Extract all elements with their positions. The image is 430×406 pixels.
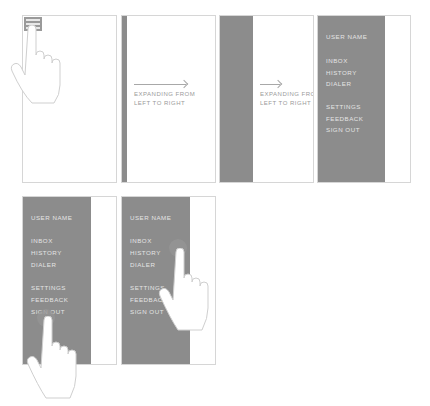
drawer-panel: USER NAME INBOX HISTORY DIALER SETTINGS … bbox=[318, 16, 385, 182]
menu-item-inbox[interactable]: INBOX bbox=[326, 57, 348, 64]
menu-item-history[interactable]: HISTORY bbox=[326, 69, 357, 76]
hand-pointer-icon bbox=[26, 316, 86, 402]
arrow-right-icon bbox=[134, 84, 186, 85]
drawer-panel bbox=[122, 16, 127, 182]
menu-item-dialer[interactable]: DIALER bbox=[326, 80, 351, 87]
menu-item-dialer[interactable]: DIALER bbox=[31, 261, 56, 268]
frame-step-3: EXPANDING FROM LEFT TO RIGHT bbox=[219, 15, 314, 183]
user-name: USER NAME bbox=[326, 33, 367, 40]
user-name: USER NAME bbox=[130, 214, 171, 221]
caption: EXPANDING FROM LEFT TO RIGHT bbox=[134, 90, 195, 108]
menu-item-dialer[interactable]: DIALER bbox=[130, 261, 155, 268]
frame-step-4: USER NAME INBOX HISTORY DIALER SETTINGS … bbox=[317, 15, 411, 183]
drawer-panel bbox=[220, 16, 253, 182]
frame-step-2: EXPANDING FROM LEFT TO RIGHT bbox=[121, 15, 216, 183]
hand-pointer-icon bbox=[10, 25, 70, 105]
hand-pointer-icon bbox=[158, 248, 218, 334]
menu-item-settings[interactable]: SETTINGS bbox=[31, 284, 66, 291]
menu-item-history[interactable]: HISTORY bbox=[31, 249, 62, 256]
menu-item-inbox[interactable]: INBOX bbox=[31, 237, 53, 244]
menu-item-feedback[interactable]: FEEDBACK bbox=[326, 115, 363, 122]
menu-item-sign-out[interactable]: SIGN OUT bbox=[326, 126, 360, 133]
menu-item-settings[interactable]: SETTINGS bbox=[326, 103, 361, 110]
user-name: USER NAME bbox=[31, 214, 72, 221]
menu-item-history[interactable]: HISTORY bbox=[130, 249, 161, 256]
menu-item-feedback[interactable]: FEEDBACK bbox=[31, 296, 68, 303]
arrow-right-icon bbox=[260, 84, 280, 85]
caption: EXPANDING FROM LEFT TO RIGHT bbox=[260, 90, 314, 108]
menu-item-inbox[interactable]: INBOX bbox=[130, 237, 152, 244]
